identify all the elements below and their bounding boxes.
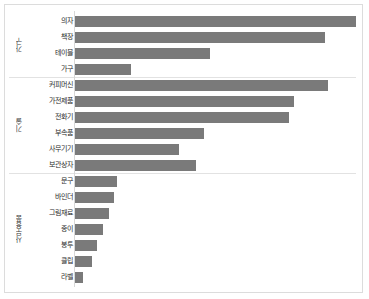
bar-row: 종이: [5, 221, 362, 237]
bar-track: [75, 109, 356, 125]
bar-track: [75, 13, 356, 29]
bar-category-label: 봉투: [29, 237, 73, 253]
bar-row: 봉투: [5, 237, 362, 253]
bar-category-label: 부속품: [29, 125, 73, 141]
bar[interactable]: [75, 32, 325, 43]
bar-category-label: 종이: [29, 221, 73, 237]
bar[interactable]: [75, 240, 97, 251]
bar[interactable]: [75, 224, 103, 235]
bar-category-label: 라벨: [29, 269, 73, 285]
bar[interactable]: [75, 16, 356, 27]
bar-row: 가전제품: [5, 93, 362, 109]
bar-row: 테이블: [5, 45, 362, 61]
bar-track: [75, 45, 356, 61]
bar-category-label: 보관상자: [29, 157, 73, 173]
bar-category-label: 테이블: [29, 45, 73, 61]
group-label: 기술: [15, 118, 25, 132]
bar-row: 라벨: [5, 269, 362, 285]
bar-row: 의자: [5, 13, 362, 29]
bar-row: 커피머신: [5, 77, 362, 93]
bar-row: 부속품: [5, 125, 362, 141]
bar-row: 책장: [5, 29, 362, 45]
plot-area: 의자책장테이블가구가구커피머신가전제품전화기부속품사무기기보관상자기술문구바인더…: [5, 5, 362, 292]
bar-category-label: 바인더: [29, 189, 73, 205]
bar[interactable]: [75, 144, 179, 155]
bar[interactable]: [75, 80, 328, 91]
bar-track: [75, 29, 356, 45]
chart-panel: 의자책장테이블가구가구커피머신가전제품전화기부속품사무기기보관상자기술문구바인더…: [4, 4, 363, 293]
bar[interactable]: [75, 48, 210, 59]
bar-row: 바인더: [5, 189, 362, 205]
bar-track: [75, 221, 356, 237]
group-band: 기술: [9, 77, 31, 173]
bar[interactable]: [75, 64, 131, 75]
bar-track: [75, 189, 356, 205]
bar-row: 사무기기: [5, 141, 362, 157]
bar[interactable]: [75, 256, 92, 267]
bar-row: 그림재료: [5, 205, 362, 221]
bar-track: [75, 173, 356, 189]
bar[interactable]: [75, 176, 117, 187]
bar-track: [75, 77, 356, 93]
bar-category-label: 가구: [29, 61, 73, 77]
bar-row: 문구: [5, 173, 362, 189]
group-label: 사무용품: [15, 215, 25, 243]
bar[interactable]: [75, 160, 196, 171]
bar[interactable]: [75, 208, 109, 219]
bar[interactable]: [75, 192, 114, 203]
bar-row: 가구: [5, 61, 362, 77]
bar-track: [75, 141, 356, 157]
bar-track: [75, 157, 356, 173]
bar-category-label: 전화기: [29, 109, 73, 125]
group-band: 가구: [9, 13, 31, 77]
bar-track: [75, 93, 356, 109]
bar-category-label: 문구: [29, 173, 73, 189]
group-band: 사무용품: [9, 173, 31, 285]
bar[interactable]: [75, 272, 83, 283]
bar-category-label: 클립: [29, 253, 73, 269]
bar-row: 전화기: [5, 109, 362, 125]
screenshot-root: 의자책장테이블가구가구커피머신가전제품전화기부속품사무기기보관상자기술문구바인더…: [0, 0, 369, 299]
bar[interactable]: [75, 96, 294, 107]
bar-row: 보관상자: [5, 157, 362, 173]
category-axis-line: [74, 11, 75, 287]
bar-track: [75, 269, 356, 285]
bar-row: 클립: [5, 253, 362, 269]
bar-category-label: 의자: [29, 13, 73, 29]
bar[interactable]: [75, 112, 289, 123]
bar-track: [75, 125, 356, 141]
group-label: 가구: [15, 38, 25, 52]
bar[interactable]: [75, 128, 204, 139]
bar-track: [75, 61, 356, 77]
bar-track: [75, 253, 356, 269]
bar-category-label: 사무기기: [29, 141, 73, 157]
bar-category-label: 가전제품: [29, 93, 73, 109]
bar-category-label: 그림재료: [29, 205, 73, 221]
bar-track: [75, 205, 356, 221]
bar-category-label: 커피머신: [29, 77, 73, 93]
bar-category-label: 책장: [29, 29, 73, 45]
bar-track: [75, 237, 356, 253]
